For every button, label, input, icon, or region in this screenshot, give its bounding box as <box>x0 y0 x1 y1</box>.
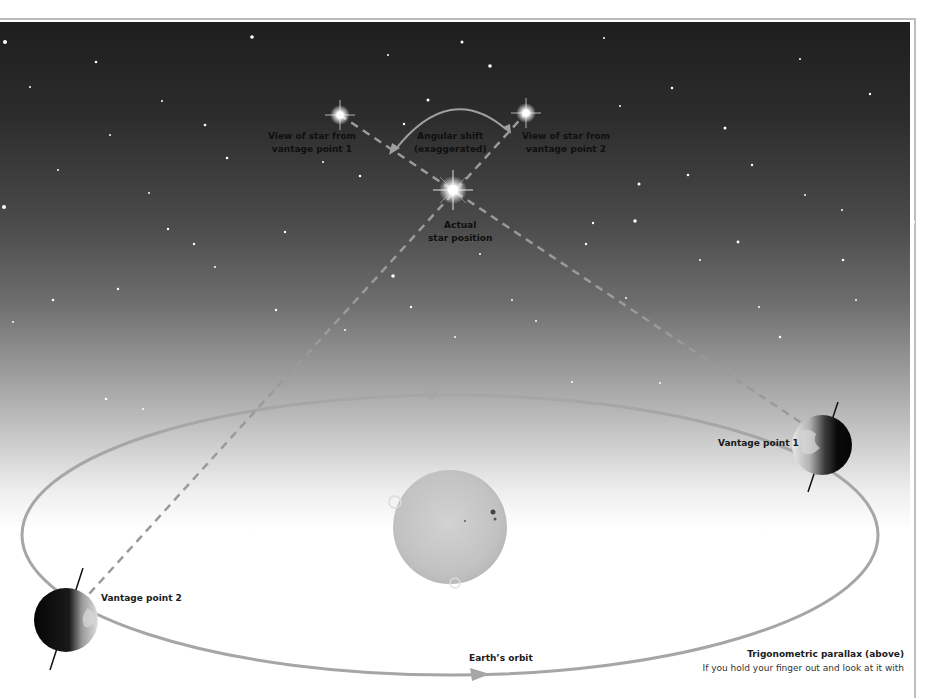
label-view-star-vp1: View of star from vantage point 1 <box>268 130 356 156</box>
label-view-star-vp2-line1: View of star from <box>522 130 610 143</box>
sun <box>389 470 507 588</box>
label-actual-star-line1: Actual <box>428 219 492 232</box>
label-angular-shift: Angular shift (exaggerated) <box>414 130 487 156</box>
apparent-star-1 <box>325 100 355 130</box>
orbit-arrow-top <box>422 386 442 400</box>
label-view-star-vp2: View of star from vantage point 2 <box>522 130 610 156</box>
orbit-arrow-bottom <box>470 668 490 681</box>
label-view-star-vp1-line2: vantage point 1 <box>268 143 356 156</box>
caption-title: Trigonometric parallax (above) <box>747 649 904 659</box>
label-vantage-point-2: Vantage point 2 <box>101 592 182 605</box>
label-actual-star-line2: star position <box>428 232 492 245</box>
label-view-star-vp2-line2: vantage point 2 <box>522 143 610 156</box>
earth-vantage-point-2 <box>34 568 98 670</box>
label-view-star-vp1-line1: View of star from <box>268 130 356 143</box>
actual-star <box>433 170 473 210</box>
caption-text: If you hold your finger out and look at … <box>702 663 904 673</box>
label-vantage-point-1: Vantage point 1 <box>718 437 799 450</box>
label-earths-orbit: Earth’s orbit <box>469 652 533 665</box>
label-angular-shift-line1: Angular shift <box>414 130 487 143</box>
label-actual-star: Actual star position <box>428 219 492 245</box>
label-angular-shift-line2: (exaggerated) <box>414 143 487 156</box>
